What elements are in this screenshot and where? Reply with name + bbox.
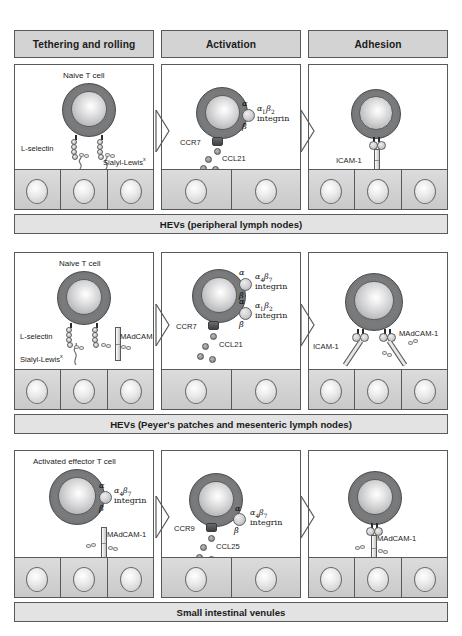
endothelial-nucleus — [367, 179, 389, 204]
row-small-intestinal-venules: Activated effector T cell α β α4β7 integ… — [14, 450, 448, 622]
endothelial-cell — [308, 369, 354, 409]
stage-arrow-1 — [154, 108, 172, 154]
sugar-unit — [383, 550, 388, 554]
t-cell-membrane — [57, 271, 111, 325]
sugar-unit — [355, 546, 360, 550]
endothelial-cell — [231, 369, 302, 409]
t-cell-membrane — [192, 269, 246, 323]
panel-r3-activation: α β α4β7 integrin CCR9 CCL25 — [161, 450, 301, 598]
t-cell-membrane — [345, 273, 403, 331]
stage-header-tethering: Tethering and rolling — [14, 30, 154, 58]
integrin-alpha-label: α — [99, 480, 105, 490]
integrin-alpha-label: α — [235, 503, 241, 513]
label-icam-1: ICAM-1 — [336, 157, 362, 166]
integrin1-alpha-label: α — [239, 267, 245, 277]
endothelial-cell — [14, 557, 60, 597]
endothelial-cell — [354, 169, 401, 209]
endothelial-cell — [60, 169, 107, 209]
cell-label-naive-t-cell: Naive T cell — [59, 259, 101, 268]
label-integrin-a4b7: α4β7 integrin — [255, 273, 287, 292]
endothelium-layer — [308, 557, 448, 597]
endothelial-cell — [161, 557, 231, 597]
endothelium-layer — [14, 169, 154, 209]
cell-label-activated-effector-t-cell: Activated effector T cell — [33, 457, 116, 466]
endothelial-cell — [401, 557, 448, 597]
t-cell-nucleus — [357, 479, 393, 515]
integrin-word: integrin — [257, 114, 289, 123]
panel-r2-tethering: Naive T cell L-selectin — [14, 252, 154, 410]
label-sialyl-lewis-x: Sialyl-Lewisx — [20, 353, 63, 364]
endothelial-nucleus — [255, 567, 277, 592]
t-cell-membrane — [351, 89, 401, 139]
chemokine-dot — [214, 148, 221, 155]
endothelium-layer — [161, 557, 301, 597]
row-caption-small-intestinal-venules: Small intestinal venules — [14, 602, 448, 622]
t-cell-nucleus — [58, 477, 96, 515]
endothelial-cell — [308, 169, 354, 209]
homing-cascade-figure: Tethering and rolling Activation Adhesio… — [0, 0, 462, 636]
sugar-unit — [86, 544, 91, 548]
label-madcam-1: MAdCAM-1 — [107, 531, 146, 540]
label-integrin-a4b7: α4β7 integrin — [114, 487, 146, 506]
endothelial-nucleus — [185, 567, 207, 592]
endothelial-nucleus — [26, 379, 48, 404]
endothelial-cell — [308, 557, 354, 597]
integrin-word: integrin — [255, 311, 287, 320]
t-cell — [62, 83, 116, 137]
label-integrin-a4b7: α4β7 integrin — [250, 509, 282, 528]
chemokine-dot — [209, 356, 216, 363]
integrin-beta-label: β — [234, 525, 239, 535]
endothelium-layer — [14, 557, 154, 597]
endothelial-nucleus — [120, 567, 142, 592]
t-cell-nucleus — [205, 95, 240, 130]
endothelial-nucleus — [73, 379, 95, 404]
chemokine-dot — [208, 535, 215, 542]
label-l-selectin: L-selectin — [21, 145, 54, 154]
stage-header-row: Tethering and rolling Activation Adhesio… — [14, 30, 448, 58]
t-cell — [192, 269, 246, 323]
chemokine-dot — [205, 156, 212, 163]
integrin2-alpha-label: α — [239, 296, 245, 306]
endothelial-nucleus — [73, 567, 95, 592]
stage-header-activation: Activation — [161, 30, 301, 58]
endothelial-cell — [161, 169, 231, 209]
endothelial-cell — [14, 369, 60, 409]
stage-arrow-5 — [154, 494, 172, 540]
stage-header-adhesion: Adhesion — [308, 30, 448, 58]
panel-r3-tethering: Activated effector T cell α β α4β7 integ… — [14, 450, 154, 598]
integrin2-beta-label: β — [239, 319, 244, 329]
label-integrin-aLb2: αLβ2 integrin — [257, 105, 289, 124]
sugar-unit — [113, 547, 118, 551]
sugar-unit — [84, 154, 89, 158]
t-cell-nucleus — [354, 281, 393, 320]
row-hev-peripheral: Naive T cell L-selectin — [14, 64, 448, 234]
t-cell — [348, 471, 402, 525]
label-ccr7: CCR7 — [180, 139, 201, 148]
ccr7-receptor-glyph — [208, 321, 219, 330]
integrin-word: integrin — [250, 518, 282, 527]
row-caption-hev-peripheral: HEVs (peripheral lymph nodes) — [14, 214, 448, 234]
label-sialyl-superscript: x — [60, 353, 63, 359]
chemokine-dot — [200, 544, 207, 551]
cell-label-naive-t-cell: Naive T cell — [63, 71, 105, 80]
integrin-word: integrin — [114, 496, 146, 505]
t-cell — [345, 273, 403, 331]
sugar-unit — [413, 339, 418, 343]
t-cell-membrane — [49, 469, 105, 525]
icam1-rod — [374, 149, 380, 171]
endothelial-nucleus — [320, 179, 342, 204]
label-ccr7: CCR7 — [176, 323, 197, 332]
endothelial-nucleus — [120, 179, 142, 204]
label-sialyl-lewis-text: Sialyl-Lewis — [103, 158, 143, 167]
t-cell-nucleus — [198, 481, 234, 517]
panel-group: Naive T cell L-selectin — [14, 64, 448, 210]
endothelial-nucleus — [414, 567, 436, 592]
endothelial-nucleus — [414, 179, 436, 204]
endothelial-nucleus — [367, 379, 389, 404]
panel-r2-activation: α β α4β7 integrin α β αLβ2 integrin CCR7 — [161, 252, 301, 410]
endothelial-nucleus — [185, 379, 207, 404]
t-cell-membrane — [196, 87, 248, 139]
panel-r2-adhesion: ICAM-1 MAdCAM-1 — [308, 252, 448, 410]
label-integrin-aLb2: αLβ2 integrin — [255, 302, 287, 321]
endothelial-nucleus — [185, 179, 207, 204]
